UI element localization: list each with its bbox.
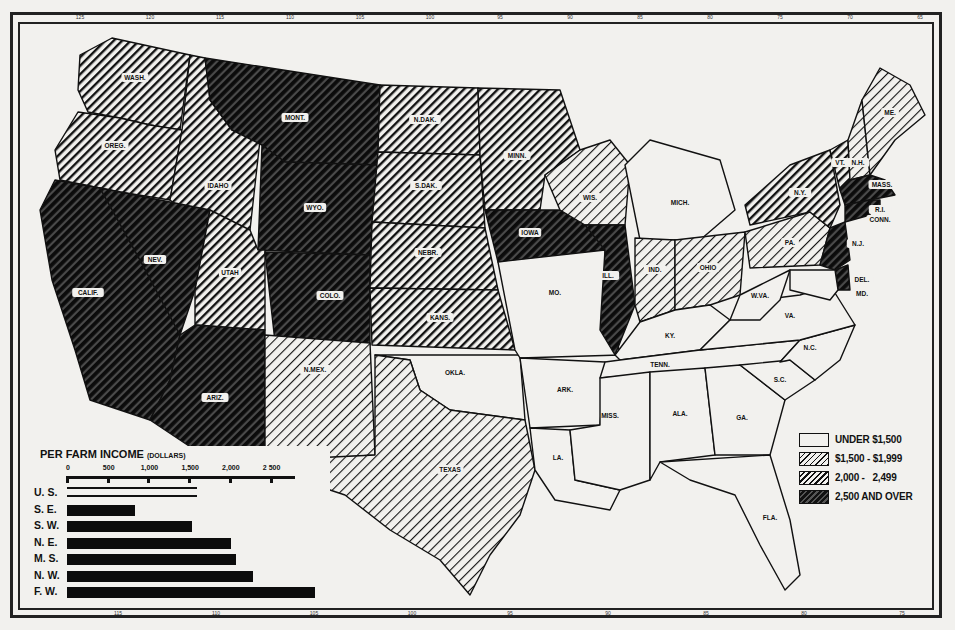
longitude-tick: 125 (76, 14, 84, 20)
longitude-tick: 80 (801, 610, 807, 616)
bar-row: S. E. (30, 504, 330, 516)
state-label: WIS. (583, 194, 597, 201)
bar-region (67, 587, 315, 598)
axis-tick-label: 2,000 (222, 464, 240, 471)
legend-label: UNDER $1,500 (835, 434, 902, 445)
state-label: KY. (665, 332, 675, 339)
axis-tick (270, 476, 273, 483)
state-label: GA. (736, 414, 748, 421)
longitude-tick: 120 (146, 14, 154, 20)
state-nmex (265, 335, 375, 462)
axis-tick-label: 500 (103, 464, 115, 471)
bar-category-label: N. W. (34, 569, 68, 581)
state-label: FLA. (763, 514, 778, 521)
state-label: MICH. (671, 199, 690, 206)
bar-region (67, 505, 135, 516)
chart-title-units: (DOLLARS) (147, 452, 186, 459)
longitude-tick: 110 (212, 610, 220, 616)
bar-category-label: M. S. (34, 552, 68, 564)
state-label: ILL. (602, 272, 614, 279)
axis-tick-label: 2 500 (263, 464, 281, 471)
state-label: ME. (884, 109, 896, 116)
bar-row: S. W. (30, 520, 330, 532)
state-fla (660, 455, 800, 590)
bar-region (67, 554, 236, 565)
bar-region (67, 571, 253, 582)
state-label: S.C. (774, 376, 787, 383)
state-label: DEL. (855, 276, 870, 283)
longitude-tick: 105 (310, 610, 318, 616)
legend-item-1500-1999: $1,500 - $1,999 (799, 449, 939, 468)
bar-row: M. S. (30, 553, 330, 565)
legend-swatch-dark-hatch (799, 490, 829, 504)
state-label: IDAHO (208, 182, 229, 189)
bar-region (67, 521, 192, 532)
state-label: N.MEX. (304, 366, 327, 373)
state-label: N.Y. (794, 189, 806, 196)
longitude-tick: 90 (567, 14, 573, 20)
legend-item-2000-2499: 2,000 - 2,499 (799, 468, 939, 487)
bar-category-label: N. E. (34, 536, 68, 548)
longitude-tick: 105 (356, 14, 364, 20)
state-label: IND. (649, 266, 662, 273)
legend-item-2500-over: 2,500 AND OVER (799, 487, 939, 506)
state-mich (625, 140, 735, 240)
longitude-tick: 95 (507, 610, 513, 616)
legend-swatch-medium-hatch (799, 471, 829, 485)
axis-tick-label: 1,500 (181, 464, 199, 471)
axis-tick (147, 476, 150, 483)
state-label: MONT. (285, 114, 305, 121)
longitude-tick: 115 (114, 610, 122, 616)
state-label: W.VA. (751, 292, 769, 299)
state-label: N.J. (852, 240, 864, 247)
state-label: WASH. (124, 74, 146, 81)
state-label: OREG. (105, 142, 126, 149)
state-label: OKLA. (445, 369, 465, 376)
state-label: ALA. (672, 410, 687, 417)
bar-row: N. E. (30, 537, 330, 549)
state-label: N.C. (804, 344, 817, 351)
legend-item-under-1500: UNDER $1,500 (799, 430, 939, 449)
axis-tick-label: 0 (66, 464, 70, 471)
longitude-tick: 100 (426, 14, 434, 20)
state-label: N.H. (852, 159, 865, 166)
bar-row: N. W. (30, 570, 330, 582)
legend-label: $1,500 - $1,999 (835, 453, 902, 464)
bar-category-label: F. W. (34, 585, 68, 597)
legend-label: 2,000 - 2,499 (835, 472, 897, 483)
bar-region (67, 538, 231, 549)
longitude-ticks-top: 12512011511010510095908580757065 (18, 13, 934, 23)
state-ind (635, 238, 675, 322)
axis-tick (229, 476, 232, 483)
state-label: IOWA (521, 229, 539, 236)
longitude-ticks-bottom: 115110105100959085807570 (18, 609, 934, 619)
bar-category-label: S. E. (34, 503, 68, 515)
legend-swatch-empty (799, 433, 829, 447)
state-label: KANS. (430, 314, 450, 321)
state-me (862, 68, 925, 175)
state-label: R.I. (875, 206, 885, 213)
state-label: N.DAK. (414, 116, 437, 123)
state-label: MISS. (601, 412, 619, 419)
state-label: LA. (553, 454, 564, 461)
axis-tick-label: 1,000 (141, 464, 159, 471)
longitude-tick: 80 (707, 14, 713, 20)
longitude-tick: 85 (703, 610, 709, 616)
state-label: UTAH (221, 269, 239, 276)
axis-tick (188, 476, 191, 483)
state-label: ARK. (557, 386, 573, 393)
map-legend: UNDER $1,500 $1,500 - $1,999 2,000 - 2,4… (799, 430, 939, 506)
longitude-tick: 70 (847, 14, 853, 20)
longitude-tick: 115 (216, 14, 224, 20)
state-label: MASS. (872, 181, 893, 188)
state-label: MD. (856, 290, 868, 297)
state-label: VA. (785, 312, 796, 319)
state-label: TEXAS (439, 466, 461, 473)
longitude-tick: 85 (637, 14, 643, 20)
state-label: ARIZ. (207, 394, 224, 401)
per-farm-income-chart: PER FARM INCOME (DOLLARS) 05001,0001,500… (30, 446, 330, 606)
bar-category-label: S. W. (34, 519, 68, 531)
longitude-tick: 65 (917, 14, 923, 20)
chart-x-axis: 05001,0001,5002,0002 500 (67, 476, 295, 479)
legend-swatch-light-hatch (799, 452, 829, 466)
